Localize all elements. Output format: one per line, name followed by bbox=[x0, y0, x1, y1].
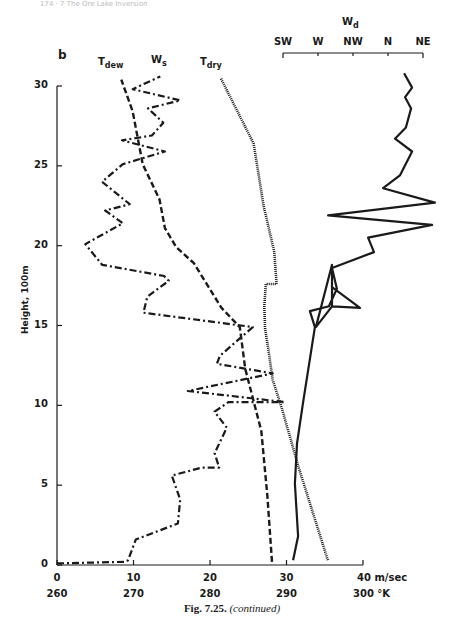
sounding-chart bbox=[0, 0, 460, 631]
x-tick-label-speed: 30 bbox=[280, 572, 294, 583]
legend-tdry: Tdry bbox=[200, 56, 222, 70]
legend-ws-main: W bbox=[151, 54, 162, 65]
y-tick-label: 25 bbox=[28, 159, 48, 170]
legend-wd-sub: d bbox=[353, 21, 359, 30]
y-tick-label: 30 bbox=[28, 79, 48, 90]
legend-wd: Wd bbox=[342, 16, 359, 30]
wd-tick-marks bbox=[283, 53, 423, 58]
y-tick-label: 10 bbox=[28, 398, 48, 409]
x-tick-label-temperature: 290 bbox=[276, 588, 297, 599]
y-tick-label: 20 bbox=[28, 239, 48, 250]
wd-tick-label: N bbox=[384, 36, 392, 47]
series-wd bbox=[293, 73, 435, 560]
wd-tick-label: SW bbox=[274, 36, 292, 47]
x-tick-label-speed: 10 bbox=[127, 572, 141, 583]
x-tick-label-temperature: 300 °K bbox=[353, 588, 390, 599]
legend-ws: Ws bbox=[151, 54, 167, 68]
legend-wd-main: W bbox=[342, 16, 353, 27]
y-axis-label: Height, 100m bbox=[20, 265, 30, 334]
panel-letter: b bbox=[58, 48, 67, 62]
wd-tick-label: NE bbox=[415, 36, 430, 47]
figure-caption: Fig. 7.25. (continued) bbox=[184, 602, 280, 614]
axes bbox=[57, 53, 423, 565]
page-header: 174 · 7 The Ore Lake Inversion bbox=[40, 0, 147, 8]
x-tick-label-speed: 20 bbox=[203, 572, 217, 583]
y-tick-marks bbox=[57, 86, 62, 565]
legend-tdry-sub: dry bbox=[207, 61, 222, 70]
wd-tick-label: NW bbox=[343, 36, 362, 47]
caption-note: (continued) bbox=[229, 602, 280, 614]
series-ws bbox=[57, 76, 285, 563]
legend-tdew-sub: dew bbox=[105, 61, 124, 70]
x-tick-label-temperature: 270 bbox=[123, 588, 144, 599]
x-tick-label-speed: 0 bbox=[54, 572, 61, 583]
legend-ws-sub: s bbox=[162, 59, 167, 68]
y-tick-label: 0 bbox=[28, 558, 48, 569]
wd-tick-label: W bbox=[312, 36, 323, 47]
x-tick-label-temperature: 260 bbox=[47, 588, 68, 599]
legend-tdew-main: T bbox=[98, 56, 105, 67]
y-tick-label: 5 bbox=[28, 478, 48, 489]
legend-tdew: Tdew bbox=[98, 56, 123, 70]
series-layer bbox=[57, 73, 435, 563]
caption-fig: Fig. 7.25. bbox=[184, 602, 227, 614]
x-tick-label-speed: 40 m/sec bbox=[357, 572, 407, 583]
y-tick-label: 15 bbox=[28, 319, 48, 330]
legend-tdry-main: T bbox=[200, 56, 207, 67]
x-tick-label-temperature: 280 bbox=[200, 588, 221, 599]
